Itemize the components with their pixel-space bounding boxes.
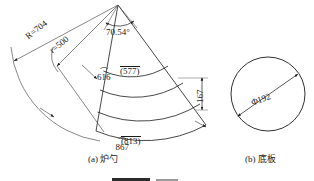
caption-base-plate-text: (b) 底板 <box>245 154 276 164</box>
label-height-167: 167 <box>196 103 210 112</box>
arrow-mid-arc-left <box>82 65 97 79</box>
label-chord-bottom: (813) <box>121 136 141 146</box>
arc-mid <box>100 83 183 97</box>
label-chord-mid-text: (577) <box>120 66 140 76</box>
label-chord-bottom-text: (813) <box>121 136 141 146</box>
label-sector-angle: 70.54° <box>106 28 130 37</box>
caption-base-plate: (b) 底板 <box>245 155 276 164</box>
arc-symbol-icon: ⌒ <box>100 68 108 76</box>
label-arc-mid: ⌒ 616 <box>97 73 111 82</box>
arc-lower <box>98 104 201 121</box>
arc-construction-outer <box>11 47 100 141</box>
label-diameter: Φ192 <box>250 99 270 108</box>
technical-drawing: R=704 r=500 70.54° ⌒ 616 (577) ⌒ 867 (81… <box>0 0 314 181</box>
caption-ladle-text: (a) 炉勺 <box>88 154 118 164</box>
label-outer-radius: R=704 <box>24 34 49 43</box>
bottom-bar-grey <box>156 179 178 181</box>
arc-bottom <box>96 125 206 141</box>
label-height-167-text: 167 <box>196 90 205 104</box>
angle-arc <box>106 21 134 26</box>
caption-ladle: (a) 炉勺 <box>88 155 118 164</box>
bottom-bar-dark <box>112 178 150 181</box>
label-inner-radius: r=500 <box>48 48 70 57</box>
label-chord-mid: (577) <box>120 66 140 76</box>
label-sector-angle-text: 70.54° <box>106 27 130 37</box>
arrow-bottom-arc-right <box>195 121 206 127</box>
